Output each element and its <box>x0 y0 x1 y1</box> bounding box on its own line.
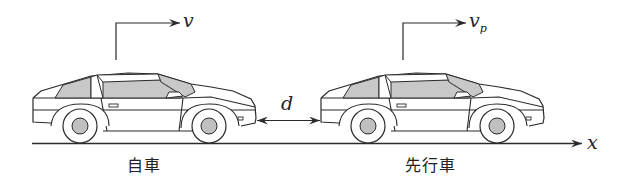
car-following-diagram: v vp d x 自車 先行車 <box>0 0 620 183</box>
diagram-canvas <box>0 0 620 183</box>
x-axis-label: x <box>587 131 598 153</box>
gap-distance-label: d <box>281 92 293 114</box>
preceding-velocity-label: vp <box>469 9 487 35</box>
preceding-velocity-symbol: v <box>469 9 480 31</box>
own-car <box>33 73 256 143</box>
own-car-label: 自車 <box>127 152 161 176</box>
preceding-car-label: 先行車 <box>405 152 456 176</box>
own-velocity-label: v <box>183 9 194 31</box>
velocity-arrow-preceding <box>403 23 466 60</box>
velocity-arrow-own <box>116 23 180 60</box>
preceding-car <box>321 73 544 143</box>
preceding-velocity-subscript: p <box>480 22 487 35</box>
